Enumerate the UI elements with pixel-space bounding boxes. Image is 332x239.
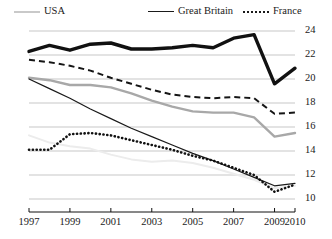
y-tick-label: 16	[305, 120, 316, 131]
x-tick-label: 1997	[12, 216, 46, 227]
y-tick-label: 10	[305, 192, 316, 203]
y-tick-label: 20	[305, 72, 316, 83]
y-tick-label: 12	[305, 168, 316, 179]
y-tick-label: 24	[305, 24, 316, 35]
series-line-series-faint-gray	[29, 135, 295, 188]
y-tick-label: 18	[305, 96, 316, 107]
data-series-group	[29, 35, 295, 192]
line-chart: USA Great Britain France 242220181614121…	[0, 0, 332, 239]
series-line-usa	[29, 78, 295, 137]
x-tick-label: 2007	[217, 216, 251, 227]
series-line-series-thick-black	[29, 35, 295, 84]
chart-canvas	[0, 0, 332, 239]
gridlines	[29, 31, 295, 199]
x-tick-label: 2001	[94, 216, 128, 227]
series-line-series-dashed-black	[29, 60, 295, 114]
x-tick-label: 2003	[135, 216, 169, 227]
x-tick-label: 2010	[278, 216, 312, 227]
y-tick-label: 14	[305, 144, 316, 155]
x-tick-label: 2005	[176, 216, 210, 227]
y-tick-label: 22	[305, 48, 316, 59]
x-axis	[29, 208, 295, 212]
series-line-great-britain	[29, 79, 295, 186]
series-line-france	[29, 133, 295, 192]
x-tick-label: 1999	[53, 216, 87, 227]
